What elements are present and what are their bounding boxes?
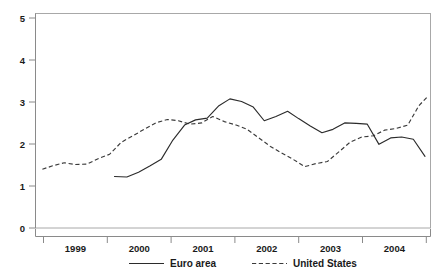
- x-tick-label-2003: 2003: [320, 243, 341, 254]
- y-tick-label-3: 3: [20, 97, 25, 108]
- x-tick-label-2004: 2004: [384, 243, 406, 254]
- legend-label-euro-area: Euro area: [170, 258, 217, 269]
- y-tick-label-5: 5: [20, 13, 26, 24]
- y-tick-marks: [29, 18, 36, 228]
- series-line-united-states: [42, 97, 427, 169]
- y-tick-label-4: 4: [20, 55, 26, 66]
- x-tick-label-2001: 2001: [192, 243, 214, 254]
- series-line-euro-area: [115, 99, 426, 177]
- x-tick-label-1999: 1999: [65, 243, 86, 254]
- y-tick-label-0: 0: [20, 223, 25, 234]
- x-tick-marks: [44, 237, 427, 244]
- y-tick-label-2: 2: [20, 139, 25, 150]
- chart-svg: 5 4 3 2 1 0 1999 2000 2001 2002 2003: [0, 0, 445, 276]
- x-axis-tick-labels: 1999 2000 2001 2002 2003 2004: [65, 243, 406, 254]
- legend-label-united-states: United States: [293, 258, 357, 269]
- y-axis-tick-labels: 5 4 3 2 1 0: [20, 13, 26, 234]
- y-tick-label-1: 1: [20, 181, 26, 192]
- chart-legend: Euro area United States: [129, 258, 357, 269]
- plot-area-frame: [36, 14, 431, 229]
- line-chart: 5 4 3 2 1 0 1999 2000 2001 2002 2003: [0, 0, 445, 276]
- x-tick-label-2002: 2002: [256, 243, 277, 254]
- x-tick-label-2000: 2000: [129, 243, 150, 254]
